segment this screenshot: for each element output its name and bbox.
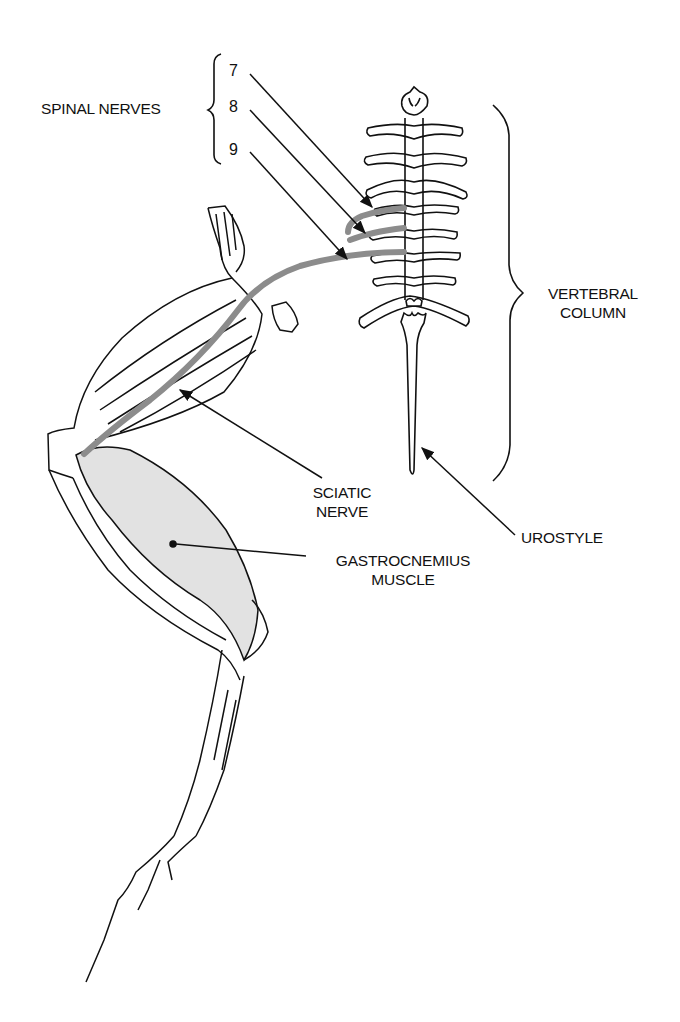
urostyle-label: UROSTYLE (521, 528, 603, 547)
vertebral-column-brace (493, 105, 523, 481)
vertebral-column-label: VERTEBRAL COLUMN (530, 284, 656, 322)
gastrocnemius-label-line2: MUSCLE (308, 570, 498, 589)
spinal-nerve-9-label: 9 (229, 140, 238, 159)
spinal-nerve-7-label: 7 (229, 61, 238, 80)
spinal-nerves-brace (208, 54, 221, 164)
sciatic-nerve-label: SCIATIC NERVE (302, 483, 382, 521)
spinal-nerves-label: SPINAL NERVES (41, 99, 161, 118)
vertebral-column-drawing (359, 87, 469, 474)
spinal-nerve-8-label: 8 (229, 97, 238, 116)
vertebral-column-label-line1: VERTEBRAL (530, 284, 656, 303)
thigh-drawing (48, 206, 298, 478)
gastrocnemius-muscle (76, 447, 258, 660)
gastrocnemius-muscle-label: GASTROCNEMIUS MUSCLE (308, 551, 498, 589)
gastrocnemius-label-line1: GASTROCNEMIUS (308, 551, 498, 570)
vertebral-column-label-line2: COLUMN (530, 303, 656, 322)
sciatic-nerve-label-line1: SCIATIC (302, 483, 382, 502)
sciatic-nerve-label-line2: NERVE (302, 502, 382, 521)
